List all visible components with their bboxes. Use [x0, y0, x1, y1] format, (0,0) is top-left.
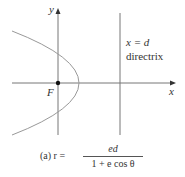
focus-point — [56, 81, 60, 85]
caption-fraction: ed 1 + e cos θ — [83, 143, 143, 170]
caption-prefix: (a) r = — [40, 150, 65, 161]
focus-label: F — [47, 86, 54, 98]
y-axis-label: y — [49, 3, 54, 15]
y-axis-arrow-icon — [56, 8, 61, 14]
fraction-denominator: 1 + e cos θ — [83, 158, 143, 170]
x-axis-label: x — [169, 85, 174, 97]
directrix-label: directrix — [126, 50, 163, 62]
fraction-bar — [83, 156, 143, 157]
fraction-numerator: ed — [83, 143, 143, 155]
directrix-equation: x = d — [126, 36, 149, 48]
